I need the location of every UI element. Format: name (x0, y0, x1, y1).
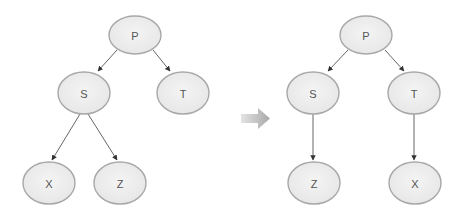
node-label: P (362, 30, 369, 42)
node-label: X (411, 178, 419, 190)
node-label: S (80, 88, 87, 100)
after-tree: P S T Z X (287, 16, 441, 204)
node-s: S (287, 72, 339, 114)
node-label: S (309, 88, 316, 100)
node-z: Z (288, 162, 340, 204)
node-label: Z (311, 178, 318, 190)
node-z: Z (94, 162, 146, 204)
edge-p-s (328, 50, 348, 71)
edge-p-t (385, 50, 404, 71)
node-label: X (45, 178, 53, 190)
before-tree: P S T X Z (23, 16, 209, 204)
right-arrow-icon (241, 108, 270, 129)
node-t: T (388, 72, 440, 114)
node-label: P (131, 30, 138, 42)
tree-transform-diagram: P S T X Z P S (0, 0, 465, 218)
node-t: T (157, 72, 209, 114)
node-p: P (340, 16, 392, 54)
node-label: Z (117, 178, 124, 190)
edge-p-t (153, 50, 170, 71)
edge-s-z (88, 114, 117, 160)
node-p: P (109, 16, 161, 54)
node-x: X (23, 162, 75, 204)
node-x: X (389, 162, 441, 204)
edge-p-s (98, 50, 117, 71)
node-label: T (180, 88, 187, 100)
edge-s-x (52, 114, 80, 160)
node-s: S (58, 72, 110, 114)
node-label: T (411, 88, 418, 100)
